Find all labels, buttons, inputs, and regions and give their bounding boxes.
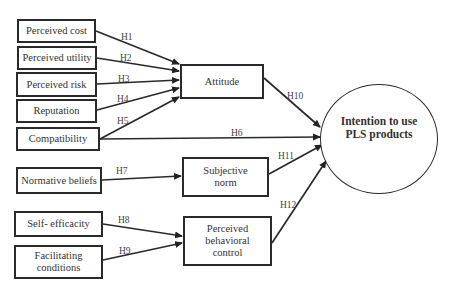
node-label: Perceived risk	[27, 79, 87, 91]
label-h8: H8	[118, 215, 130, 225]
edge-h5	[100, 97, 179, 139]
node-subjective-norm: Subjective norm	[182, 157, 269, 197]
node-perceived-behavioral-control: Perceived behavioral control	[183, 216, 272, 266]
label-h9: H9	[119, 246, 131, 256]
node-perceived-cost: Perceived cost	[17, 19, 96, 43]
edge-h9	[103, 243, 182, 260]
node-intention: Intention to use PLS products	[320, 84, 438, 194]
node-perceived-risk: Perceived risk	[16, 72, 97, 97]
node-label: Subjective norm	[196, 165, 256, 189]
node-self-efficacity: Self- efficacity	[14, 211, 103, 237]
node-label: Compatibility	[29, 133, 87, 145]
edge-h11	[269, 145, 322, 174]
label-h7: H7	[116, 166, 128, 176]
label-h11: H11	[278, 151, 294, 161]
node-perceived-utility: Perceived utility	[17, 46, 97, 70]
edge-h10	[264, 78, 320, 127]
node-label: Perceived utility	[22, 52, 91, 64]
node-normative-beliefs: Normative beliefs	[16, 167, 102, 194]
node-label: Attitude	[205, 76, 239, 88]
edge-h4	[97, 88, 179, 110]
node-label: Normative beliefs	[21, 175, 97, 187]
node-attitude: Attitude	[180, 64, 264, 99]
edge-h3	[97, 80, 179, 84]
label-h10: H10	[287, 91, 303, 101]
label-h5: H5	[117, 116, 129, 126]
label-h3: H3	[118, 74, 130, 84]
node-label: Facilitating conditions	[29, 250, 89, 274]
label-h4: H4	[117, 94, 129, 104]
node-label: Perceived cost	[26, 25, 87, 37]
node-reputation: Reputation	[16, 99, 97, 123]
node-facilitating-conditions: Facilitating conditions	[14, 245, 103, 279]
node-label: Reputation	[33, 105, 79, 117]
edge-h6	[100, 137, 320, 139]
edge-h8	[103, 224, 182, 236]
label-h6: H6	[231, 128, 243, 138]
node-compatibility: Compatibility	[16, 127, 100, 151]
edge-h7	[102, 176, 181, 180]
label-h2: H2	[120, 53, 132, 63]
node-label: Perceived behavioral control	[198, 223, 258, 259]
label-h1: H1	[121, 32, 133, 42]
node-label: Self- efficacity	[27, 218, 89, 230]
node-label: Intention to use PLS products	[339, 115, 419, 141]
label-h12: H12	[280, 200, 296, 210]
